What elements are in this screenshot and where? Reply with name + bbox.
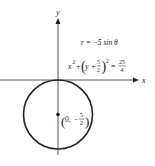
svg-text:): ): [85, 114, 89, 129]
polar-graph: x y ( 0, − 5 2 ) r = −5 sin θ x 2 + ( y …: [0, 0, 155, 166]
svg-text:2: 2: [106, 58, 109, 64]
svg-text:y +: y +: [84, 62, 96, 71]
svg-text:−: −: [74, 115, 78, 124]
y-axis-label: y: [55, 8, 60, 17]
svg-text:5: 5: [80, 112, 83, 118]
svg-text:4: 4: [121, 67, 124, 73]
center-point: [56, 113, 60, 117]
svg-text:2: 2: [80, 120, 83, 126]
svg-text:0,: 0,: [65, 115, 71, 124]
x-axis-label: x: [141, 76, 146, 85]
polar-equation: r = −5 sin θ: [81, 38, 118, 47]
y-axis-arrow-icon: [56, 18, 61, 24]
svg-text:=: =: [111, 62, 116, 71]
x-axis-arrow-icon: [133, 78, 139, 83]
center-label: ( 0, − 5 2 ): [61, 112, 89, 129]
svg-text:5: 5: [97, 59, 100, 65]
svg-text:x: x: [67, 62, 72, 71]
svg-text:25: 25: [119, 59, 125, 65]
svg-text:2: 2: [97, 67, 100, 73]
cartesian-equation: x 2 + ( y + 5 2 ) 2 = 25 4: [67, 58, 126, 75]
